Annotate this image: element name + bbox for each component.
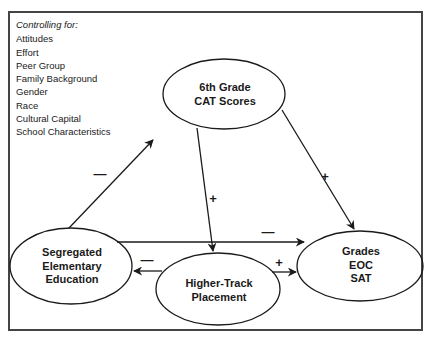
node-grades-line1: Grades [342, 245, 380, 259]
node-cat-line1: 6th Grade [194, 81, 256, 95]
edge-seg-to-cat [69, 140, 153, 228]
sign-cat-to-track: + [209, 191, 217, 206]
node-segregated-line3: Education [42, 273, 102, 287]
node-segregated-line1: Segregated [42, 246, 102, 260]
node-cat-line2: CAT Scores [194, 94, 256, 108]
node-cat: 6th Grade CAT Scores [194, 81, 256, 108]
node-grades-line2: EOC [342, 258, 380, 272]
node-track-line1: Higher-Track [185, 277, 252, 291]
edge-cat-to-grades [282, 110, 354, 229]
edge-cat-to-track [197, 128, 213, 251]
node-grades-line3: SAT [342, 272, 380, 286]
node-segregated: Segregated Elementary Education [42, 246, 102, 287]
sign-track-to-grades: + [275, 255, 283, 270]
node-grades: Grades EOC SAT [342, 245, 380, 286]
sign-cat-to-grades: + [321, 169, 329, 184]
node-track: Higher-Track Placement [185, 277, 252, 304]
sign-seg-to-grades: — [262, 224, 275, 239]
node-track-line2: Placement [185, 290, 252, 304]
sign-seg-to-cat: — [94, 166, 107, 181]
sign-track-to-seg: — [141, 252, 154, 267]
node-segregated-line2: Elementary [42, 259, 102, 273]
